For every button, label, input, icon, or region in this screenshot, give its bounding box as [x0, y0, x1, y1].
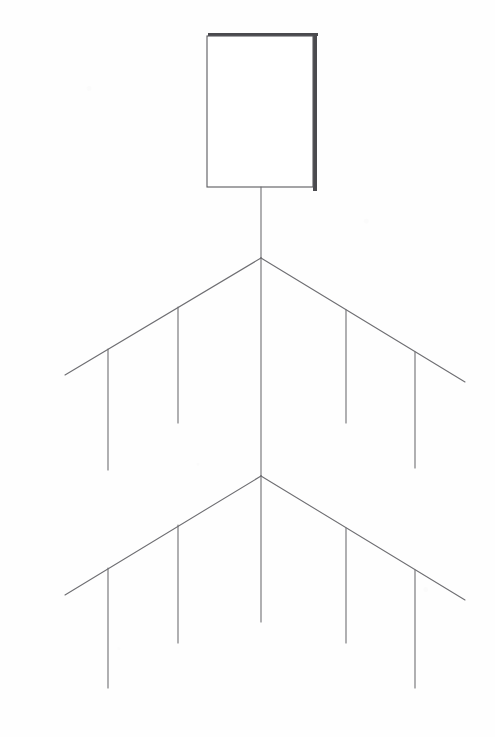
root-box-shadow-bottom: [313, 187, 317, 191]
root-box-shadow-right: [313, 34, 317, 188]
edge-layer: [65, 187, 465, 622]
junction-point-junction-1: [260, 257, 262, 259]
edge-level1-branch-right: [261, 258, 465, 382]
edge-level1-branch-left: [65, 258, 261, 375]
edge-level2-branch-right: [261, 476, 465, 600]
junction-point-junction-2: [260, 475, 262, 477]
edge-level2-branch-left: [65, 476, 261, 595]
root-node-box[interactable]: [207, 36, 313, 187]
diagram-canvas: [0, 0, 495, 737]
tree-diagram: [0, 0, 495, 737]
